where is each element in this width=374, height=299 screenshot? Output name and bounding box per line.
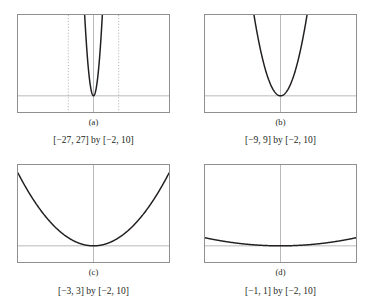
range-label-c: [−3, 3] by [−2, 10] (58, 286, 129, 297)
panel-b: (b) [−9, 9] by [−2, 10] (187, 0, 374, 150)
plot-canvas-a (18, 15, 169, 112)
panel-label-b: (b) (275, 117, 285, 127)
plot-frame-d (204, 164, 357, 263)
panel-label-d: (d) (275, 267, 285, 277)
axes-d (205, 165, 356, 262)
plot-canvas-c (18, 165, 169, 262)
plot-svg-a (18, 15, 169, 112)
figure-four-viewing-windows: (a) [−27, 27] by [−2, 10] (b) [−9, 9] by… (0, 0, 374, 299)
panel-label-c: (c) (89, 267, 99, 277)
range-label-b: [−9, 9] by [−2, 10] (245, 135, 316, 146)
axes-b (205, 15, 356, 112)
panel-d: (d) [−1, 1] by [−2, 10] (187, 150, 374, 299)
plot-frame-b (204, 14, 357, 113)
panel-a: (a) [−27, 27] by [−2, 10] (0, 0, 187, 150)
plot-canvas-d (205, 165, 356, 262)
range-label-d: [−1, 1] by [−2, 10] (245, 286, 316, 297)
plot-svg-d (205, 165, 356, 262)
axes-a (18, 15, 169, 112)
plot-canvas-b (205, 15, 356, 112)
range-label-a: [−27, 27] by [−2, 10] (53, 135, 133, 146)
panel-label-a: (a) (89, 117, 99, 127)
plot-svg-c (18, 165, 169, 262)
plot-svg-b (205, 15, 356, 112)
panel-c: (c) [−3, 3] by [−2, 10] (0, 150, 187, 299)
axes-c (18, 165, 169, 262)
plot-frame-c (17, 164, 170, 263)
plot-frame-a (17, 14, 170, 113)
